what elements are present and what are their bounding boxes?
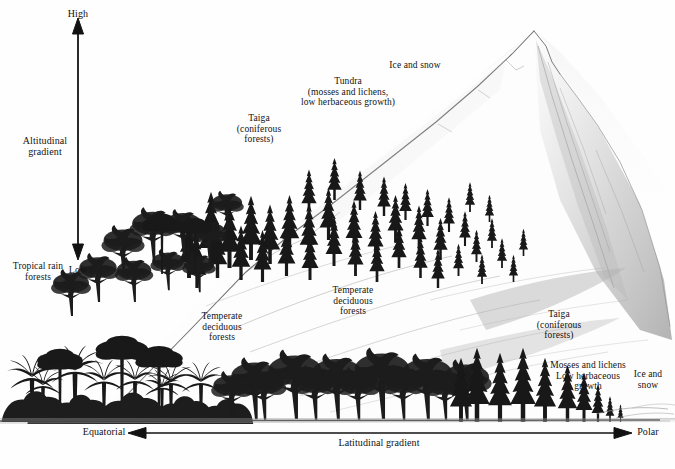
axis-label-latitudinal-gradient: Latitudinal gradient (338, 437, 419, 448)
biome-label-mosses-and-lichens: Mosses and lichens Low herbaceous growth (550, 360, 626, 392)
biome-label-taiga-lowland: Taiga (coniferous forests) (537, 309, 581, 341)
diagram-canvas: High Low Altitudinal gradient Equatorial… (0, 0, 675, 469)
axis-label-altitudinal-gradient: Altitudinal gradient (23, 135, 67, 157)
axis-label-polar: Polar (637, 426, 659, 437)
biome-label-temperate-deciduous-forests-lowland: Temperate deciduous forests (333, 285, 374, 317)
biome-label-taiga-mountain: Taiga (coniferous forests) (237, 113, 281, 145)
biome-label-tundra: Tundra (mosses and lichens, low herbaceo… (301, 76, 395, 108)
biome-label-ice-and-snow-lowland: Ice and snow (634, 369, 662, 390)
biome-label-temperate-deciduous-forests-slope: Temperate deciduous forests (202, 311, 243, 343)
axis-label-low: Low (69, 264, 88, 275)
axis-label-equatorial: Equatorial (83, 426, 126, 437)
biome-label-tropical-rain-forests: Tropical rain forests (13, 261, 63, 282)
biome-illustration (0, 0, 675, 469)
biome-label-ice-and-snow-mountain: Ice and snow (389, 60, 440, 71)
axis-label-high: High (68, 8, 88, 19)
altitudinal-axis (73, 18, 84, 260)
